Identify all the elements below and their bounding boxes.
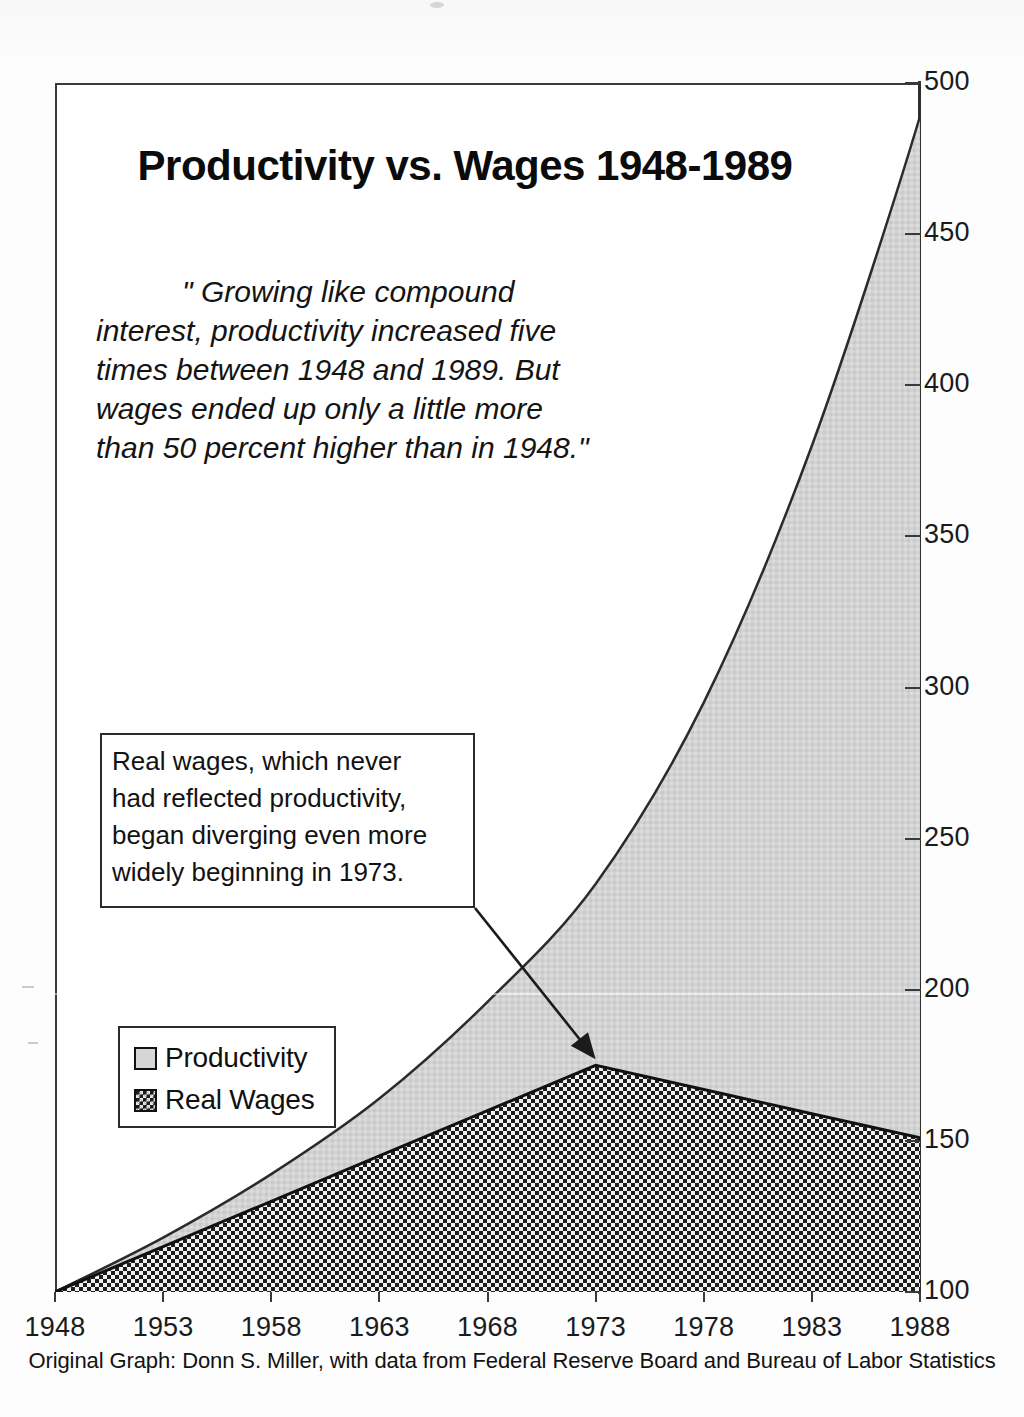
callout-line-2: had reflected productivity, [112,780,463,817]
callout-line-1: Real wages, which never [112,743,463,780]
legend-label-real-wages: Real Wages [165,1084,314,1116]
quote-annotation: " Growing like compound interest, produc… [96,272,706,467]
page-title: Productivity vs. Wages 1948-1989 [55,142,875,190]
x-tick-label: 1958 [211,1312,331,1343]
y-tick-label: 500 [924,69,1024,93]
callout-line-3: began diverging even more [112,817,463,854]
y-tick-label: 350 [924,522,1024,546]
y-tick-label: 200 [924,976,1024,1000]
y-tick-label: 450 [924,220,1024,244]
quote-line-4: wages ended up only a little more [96,389,706,428]
scan-speck-left-upper [22,986,34,988]
x-tick-mark [270,1292,272,1302]
x-tick-label: 1988 [860,1312,980,1343]
y-tick-label: 300 [924,674,1024,698]
callout-box: Real wages, which never had reflected pr… [100,733,475,908]
x-tick-label: 1973 [536,1312,656,1343]
chart-page: Productivity vs. Wages 1948-1989 " Growi… [0,0,1024,1417]
y-tick-mark [905,82,921,84]
y-tick-label: 150 [924,1127,1024,1151]
y-tick-mark [905,989,921,991]
y-tick-mark [905,233,921,235]
y-tick-mark [905,1140,921,1142]
callout-line-4: widely beginning in 1973. [112,854,463,891]
x-tick-mark [162,1292,164,1302]
x-tick-label: 1953 [103,1312,223,1343]
scan-gradient [0,0,1024,70]
x-tick-mark [487,1292,489,1302]
x-tick-label: 1983 [752,1312,872,1343]
legend-label-productivity: Productivity [165,1042,307,1074]
y-tick-label: 250 [924,825,1024,849]
y-tick-mark [905,687,921,689]
legend-swatch-productivity-icon [134,1047,157,1070]
y-tick-mark [905,535,921,537]
quote-line-2: interest, productivity increased five [96,311,706,350]
x-tick-mark [595,1292,597,1302]
x-tick-mark [703,1292,705,1302]
quote-line-5: than 50 percent higher than in 1948." [96,428,706,467]
x-tick-mark [811,1292,813,1302]
legend-swatch-real-wages-icon [134,1089,157,1112]
y-tick-mark [905,384,921,386]
x-tick-mark [54,1292,56,1302]
y-tick-label: 100 [924,1278,1024,1302]
x-tick-mark [919,1292,921,1302]
x-tick-label: 1978 [644,1312,764,1343]
x-tick-label: 1948 [0,1312,115,1343]
scan-speck-left-lower [28,1042,38,1044]
y-tick-mark [905,838,921,840]
source-note: Original Graph: Donn S. Miller, with dat… [0,1348,1024,1374]
y-tick-label: 400 [924,371,1024,395]
scan-artifact [430,2,444,8]
x-tick-label: 1968 [428,1312,548,1343]
quote-line-3: times between 1948 and 1989. But [96,350,706,389]
legend: Productivity Real Wages [118,1026,336,1128]
legend-item-real-wages: Real Wages [134,1079,334,1121]
legend-item-productivity: Productivity [134,1037,334,1079]
x-tick-label: 1963 [319,1312,439,1343]
quote-line-1: " Growing like compound [96,272,706,311]
x-tick-mark [378,1292,380,1302]
